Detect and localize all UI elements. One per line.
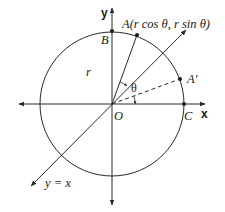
label-O: O bbox=[114, 109, 123, 123]
y-axis-label: y bbox=[101, 6, 108, 20]
rotation-diagram: y x A(r cos θ, r sin θ) B r θ A′ O C y =… bbox=[0, 0, 225, 212]
label-B: B bbox=[101, 33, 109, 47]
x-axis-label: x bbox=[201, 107, 208, 121]
angle-arc-A-prime bbox=[134, 96, 135, 104]
point-A-prime bbox=[178, 77, 182, 81]
point-C bbox=[182, 102, 186, 106]
label-A-prime: A′ bbox=[186, 72, 198, 86]
label-theta: θ bbox=[131, 81, 137, 95]
label-r: r bbox=[86, 65, 91, 79]
angle-arc-A bbox=[120, 82, 127, 86]
label-C: C bbox=[184, 109, 193, 123]
line-y-equals-x bbox=[31, 30, 186, 186]
point-A bbox=[135, 33, 139, 37]
label-A: A(r cos θ, r sin θ) bbox=[121, 17, 210, 31]
point-B bbox=[110, 29, 114, 33]
label-line-y-equals-x: y = x bbox=[43, 176, 71, 190]
